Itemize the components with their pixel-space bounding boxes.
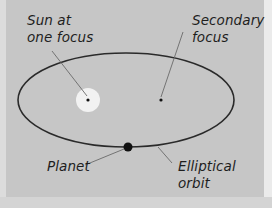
sun-label: Sun at one focus (27, 12, 93, 46)
orbit-leader-line (158, 147, 172, 163)
orbit-label-line-1: Elliptical (178, 158, 236, 175)
planet-label-line-1: Planet (47, 158, 90, 175)
secondary-focus-label: Secondary focus (192, 12, 264, 46)
secondary-label-line-1: Secondary (192, 12, 264, 29)
sun-label-line-1: Sun at (27, 12, 93, 29)
secondary-leader-line (161, 32, 183, 97)
planet-icon (124, 143, 133, 152)
planet-leader-line (85, 149, 124, 165)
secondary-focus-dot (159, 98, 162, 101)
sun-focus-dot (86, 98, 89, 101)
elliptical-orbit (18, 53, 234, 147)
sun-label-line-2: one focus (27, 29, 93, 46)
orbit-label-line-2: orbit (178, 175, 236, 192)
planet-label: Planet (47, 158, 90, 175)
secondary-label-line-2: focus (192, 29, 264, 46)
orbit-label: Elliptical orbit (178, 158, 236, 192)
